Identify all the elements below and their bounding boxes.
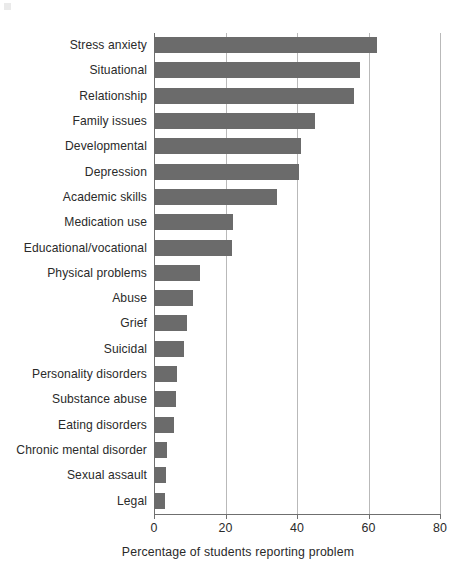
category-label: Medication use <box>64 210 147 234</box>
bar-row: Developmental <box>154 134 440 159</box>
bar-row: Stress anxiety <box>154 33 440 58</box>
category-label: Relationship <box>79 84 147 108</box>
bar-row: Grief <box>154 311 440 336</box>
bar-row: Abuse <box>154 286 440 311</box>
category-label: Physical problems <box>47 261 147 285</box>
bar <box>154 189 277 205</box>
bar-row: Medication use <box>154 210 440 235</box>
plot-area: Stress anxietySituationalRelationshipFam… <box>154 33 440 514</box>
category-label: Academic skills <box>63 185 147 209</box>
x-tick-label-60: 60 <box>361 521 375 535</box>
category-label: Personality disorders <box>32 362 147 386</box>
bar-row: Sexual assault <box>154 463 440 488</box>
x-axis-label: Percentage of students reporting problem <box>0 545 476 559</box>
bar-row: Physical problems <box>154 261 440 286</box>
bar-row: Chronic mental disorder <box>154 438 440 463</box>
bar-chart-figure: Stress anxietySituationalRelationshipFam… <box>0 0 476 582</box>
bar <box>154 417 174 433</box>
category-label: Suicidal <box>104 337 147 361</box>
bar <box>154 391 176 407</box>
gridline-80 <box>440 33 441 514</box>
category-label: Situational <box>89 58 147 82</box>
bar <box>154 442 167 458</box>
bar <box>154 315 187 331</box>
bar-row: Legal <box>154 489 440 514</box>
category-label: Stress anxiety <box>70 33 147 57</box>
bar-row: Suicidal <box>154 337 440 362</box>
bar <box>154 214 233 230</box>
bar <box>154 341 184 357</box>
x-tick-0 <box>154 514 155 519</box>
bar <box>154 164 299 180</box>
x-tick-label-80: 80 <box>433 521 447 535</box>
bar-row: Personality disorders <box>154 362 440 387</box>
bar-row: Academic skills <box>154 185 440 210</box>
bar-row: Family issues <box>154 109 440 134</box>
bar-row: Relationship <box>154 84 440 109</box>
bar <box>154 467 166 483</box>
category-label: Family issues <box>72 109 147 133</box>
bar <box>154 37 377 53</box>
category-label: Abuse <box>112 286 147 310</box>
bar <box>154 493 165 509</box>
category-label: Legal <box>117 489 147 513</box>
bar <box>154 88 354 104</box>
x-tick-20 <box>226 514 227 519</box>
category-label: Grief <box>120 311 147 335</box>
category-label: Depression <box>85 160 147 184</box>
bar <box>154 240 232 256</box>
category-label: Developmental <box>65 134 147 158</box>
bar-row: Eating disorders <box>154 413 440 438</box>
bar-row: Depression <box>154 160 440 185</box>
x-tick-label-20: 20 <box>218 521 232 535</box>
bar-row: Situational <box>154 58 440 83</box>
bar <box>154 113 315 129</box>
category-label: Chronic mental disorder <box>16 438 147 462</box>
scan-artifact <box>4 3 11 10</box>
bar-row: Educational/vocational <box>154 236 440 261</box>
bar-row: Substance abuse <box>154 387 440 412</box>
category-label: Eating disorders <box>58 413 147 437</box>
bar <box>154 138 301 154</box>
category-label: Educational/vocational <box>24 236 147 260</box>
x-tick-60 <box>369 514 370 519</box>
bar <box>154 290 193 306</box>
x-tick-80 <box>440 514 441 519</box>
bar-rows: Stress anxietySituationalRelationshipFam… <box>154 33 440 514</box>
x-tick-40 <box>297 514 298 519</box>
category-label: Substance abuse <box>52 387 147 411</box>
bar <box>154 265 200 281</box>
category-label: Sexual assault <box>67 463 147 487</box>
x-tick-label-0: 0 <box>150 521 157 535</box>
bar <box>154 366 177 382</box>
x-tick-label-40: 40 <box>290 521 304 535</box>
bar <box>154 62 360 78</box>
